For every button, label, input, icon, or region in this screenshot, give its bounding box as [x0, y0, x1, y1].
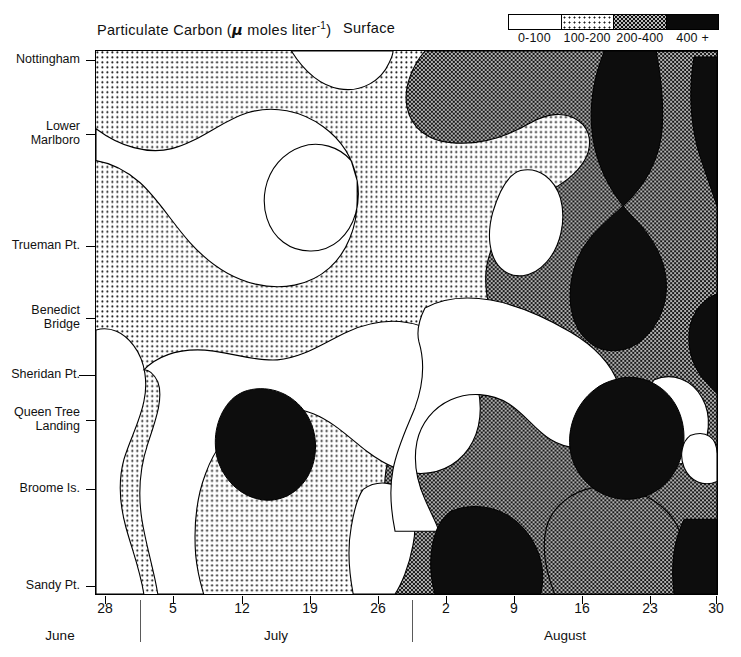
legend-label-0-100: 0-100	[508, 31, 561, 45]
y-label-sandy-pt: Sandy Pt.	[0, 579, 80, 593]
month-separator-july-august	[412, 600, 413, 642]
page-title: Particulate Carbon (μ moles liter-1)	[97, 20, 331, 38]
y-tick-trueman-pt	[86, 246, 95, 247]
x-label-aug-09: 9	[494, 600, 534, 616]
region-400plus-bottom-right	[673, 519, 717, 594]
legend-swatches	[508, 14, 719, 30]
month-label-june: June	[30, 628, 90, 643]
month-label-july: July	[246, 628, 306, 643]
y-label-sheridan-pt: Sheridan Pt.	[0, 368, 80, 382]
month-label-august: August	[535, 628, 595, 643]
y-tick-queen-tree-landing	[86, 420, 95, 421]
y-tick-sandy-pt	[86, 586, 95, 587]
y-tick-nottingham	[86, 60, 95, 61]
y-label-trueman-pt: Trueman Pt.	[0, 239, 80, 253]
title-paren-close: )	[326, 22, 331, 38]
x-label-aug-23: 23	[630, 600, 670, 616]
x-label-aug-30: 30	[696, 600, 736, 616]
legend-label-100-200: 100-200	[561, 31, 614, 45]
y-tick-broome-is	[86, 489, 95, 490]
concentration-legend: 0-100 100-200 200-400 400 +	[508, 14, 719, 45]
contour-plot-svg	[96, 51, 717, 594]
y-tick-sheridan-pt	[79, 375, 95, 376]
x-label-jul-05: 5	[153, 600, 193, 616]
y-label-nottingham: Nottingham	[0, 53, 80, 67]
legend-label-200-400: 200-400	[614, 31, 667, 45]
mu-symbol: μ	[232, 22, 243, 38]
legend-swatch-0-100	[509, 15, 562, 29]
x-label-aug-02: 2	[426, 600, 466, 616]
y-tick-lower-marlboro	[86, 134, 95, 135]
legend-label-400plus: 400 +	[666, 31, 719, 45]
title-exponent: -1	[317, 20, 327, 31]
title-text: Particulate Carbon (	[97, 22, 232, 38]
chart-subtitle: Surface	[343, 20, 395, 36]
y-label-broome-is: Broome Is.	[0, 482, 80, 496]
legend-labels: 0-100 100-200 200-400 400 +	[508, 31, 719, 45]
y-label-lower-marlboro: LowerMarlboro	[0, 120, 80, 147]
y-tick-benedict-bridge	[86, 318, 95, 319]
x-label-jul-12: 12	[222, 600, 262, 616]
y-label-queen-tree-landing: Queen TreeLanding	[0, 406, 80, 433]
x-label-jun-28: 28	[85, 600, 125, 616]
y-label-benedict-bridge: BenedictBridge	[0, 304, 80, 331]
contour-plot-area	[95, 50, 718, 595]
month-separator-june-july	[140, 600, 141, 642]
x-label-jul-26: 26	[358, 600, 398, 616]
x-label-jul-19: 19	[290, 600, 330, 616]
legend-swatch-200-400	[614, 15, 667, 29]
chart-root: Particulate Carbon (μ moles liter-1) Sur…	[0, 0, 741, 657]
legend-swatch-400plus	[667, 15, 719, 29]
title-units: moles liter	[243, 22, 317, 38]
legend-swatch-100-200	[562, 15, 615, 29]
x-label-aug-16: 16	[562, 600, 602, 616]
